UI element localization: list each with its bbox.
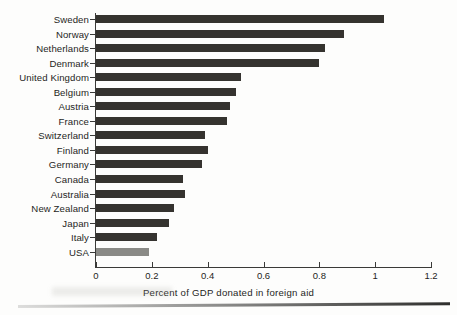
x-axis-tick (375, 262, 376, 268)
y-axis-tick (90, 135, 95, 136)
x-axis-tick-label: 1 (373, 270, 378, 281)
category-label: Netherlands (0, 43, 89, 54)
x-axis-ticks: 00.20.40.60.811.2 (0, 262, 457, 286)
bar-row: Norway (0, 29, 457, 44)
bar-row: New Zealand (0, 203, 457, 218)
bar-row: France (0, 116, 457, 131)
y-axis-tick (90, 150, 95, 151)
bar-rows: SwedenNorwayNetherlandsDenmarkUnited Kin… (0, 14, 457, 261)
category-label: Australia (0, 189, 89, 200)
category-label: Italy (0, 232, 89, 243)
x-axis-tick (431, 262, 432, 268)
x-axis-tick-label: 1.2 (424, 270, 437, 281)
y-axis-tick (90, 121, 95, 122)
bar-row: Sweden (0, 14, 457, 29)
bar-row: Austria (0, 101, 457, 116)
x-axis-tick-label: 0.4 (201, 270, 214, 281)
bar-row: Denmark (0, 58, 457, 73)
bar (96, 204, 174, 212)
category-label: Sweden (0, 14, 89, 25)
y-axis-tick (90, 34, 95, 35)
bar (96, 59, 319, 67)
y-axis-tick (90, 92, 95, 93)
bar-row: Italy (0, 232, 457, 247)
bar (96, 190, 185, 198)
bar (96, 30, 344, 38)
bar-row: United Kingdom (0, 72, 457, 87)
bar-row: Japan (0, 218, 457, 233)
bar (96, 131, 205, 139)
y-axis-tick (90, 48, 95, 49)
bar-row: Netherlands (0, 43, 457, 58)
bar (96, 117, 227, 125)
bar (96, 88, 236, 96)
scan-smudge (52, 287, 172, 296)
bar-row: Belgium (0, 87, 457, 102)
y-axis-tick (90, 179, 95, 180)
bar (96, 233, 157, 241)
category-label: Canada (0, 174, 89, 185)
bar-chart-figure: SwedenNorwayNetherlandsDenmarkUnited Kin… (0, 0, 457, 315)
bar (96, 248, 149, 256)
category-label: Germany (0, 159, 89, 170)
category-label: Belgium (0, 87, 89, 98)
bar-row: USA (0, 247, 457, 262)
category-label: Finland (0, 145, 89, 156)
y-axis-tick (90, 19, 95, 20)
x-axis-tick-label: 0.8 (313, 270, 326, 281)
x-axis-tick (152, 262, 153, 268)
y-axis-tick (90, 164, 95, 165)
x-axis-tick-label: 0.6 (257, 270, 270, 281)
x-axis-tick-label: 0.2 (145, 270, 158, 281)
y-axis-tick (90, 208, 95, 209)
bar (96, 160, 202, 168)
bar (96, 146, 208, 154)
bar-row: Germany (0, 159, 457, 174)
bar (96, 44, 325, 52)
bar-row: Finland (0, 145, 457, 160)
y-axis-tick (90, 252, 95, 253)
category-label: USA (0, 247, 89, 258)
category-label: France (0, 116, 89, 127)
category-label: Japan (0, 218, 89, 229)
y-axis-tick (90, 63, 95, 64)
category-label: Switzerland (0, 130, 89, 141)
y-axis-tick (90, 237, 95, 238)
bar (96, 175, 183, 183)
category-label: Austria (0, 101, 89, 112)
bar-row: Switzerland (0, 130, 457, 145)
y-axis-tick (90, 194, 95, 195)
bar (96, 219, 169, 227)
x-axis-tick (264, 262, 265, 268)
bar-row: Australia (0, 189, 457, 204)
y-axis-tick (90, 106, 95, 107)
bar (96, 102, 230, 110)
y-axis-tick (90, 223, 95, 224)
x-axis-tick (208, 262, 209, 268)
category-label: Norway (0, 29, 89, 40)
category-label: United Kingdom (0, 72, 89, 83)
x-axis-tick (319, 262, 320, 268)
x-axis-tick-label: 0 (93, 270, 98, 281)
category-label: New Zealand (0, 203, 89, 214)
bar-row: Canada (0, 174, 457, 189)
bar (96, 73, 241, 81)
category-label: Denmark (0, 58, 89, 69)
x-axis-tick (96, 262, 97, 268)
bar (96, 15, 384, 23)
y-axis-tick (90, 77, 95, 78)
